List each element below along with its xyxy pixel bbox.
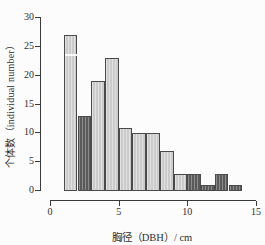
y-tick-label: 15	[14, 99, 34, 109]
y-tick-label: 0	[14, 185, 34, 195]
histogram-bar	[201, 185, 215, 191]
y-tick	[35, 190, 40, 191]
histogram-bar	[91, 81, 105, 191]
histogram-bar	[132, 133, 146, 191]
histogram-bar	[64, 35, 78, 191]
x-tick-label: 15	[251, 207, 261, 217]
y-tick	[35, 75, 40, 76]
y-tick	[35, 104, 40, 105]
histogram-figure: 个体数（individual number） 胸径（DBH）/ cm 05101…	[0, 0, 265, 245]
y-tick	[35, 46, 40, 47]
histogram-bar	[215, 174, 229, 191]
y-tick	[35, 161, 40, 162]
x-axis-title: 胸径（DBH）/ cm	[112, 229, 193, 244]
histogram-bar	[119, 128, 133, 191]
y-tick-label: 10	[14, 127, 34, 137]
histogram-bar	[146, 133, 160, 191]
x-tick-label: 0	[48, 207, 53, 217]
histogram-bar	[187, 174, 201, 191]
y-tick-label: 25	[14, 41, 34, 51]
scan-artifact-line	[65, 54, 77, 56]
y-tick-label: 20	[14, 70, 34, 80]
y-tick-label: 30	[14, 12, 34, 22]
histogram-bar	[229, 185, 243, 191]
x-tick-label: 5	[116, 207, 121, 217]
y-tick	[35, 132, 40, 133]
x-tick-label: 10	[182, 207, 192, 217]
histogram-bar	[105, 58, 119, 191]
histogram-bar	[174, 174, 188, 191]
histogram-bar	[160, 151, 174, 191]
y-tick	[35, 17, 40, 18]
y-axis-line	[40, 17, 41, 191]
y-tick-label: 5	[14, 156, 34, 166]
histogram-bar	[78, 116, 92, 191]
x-axis-line	[50, 200, 256, 201]
